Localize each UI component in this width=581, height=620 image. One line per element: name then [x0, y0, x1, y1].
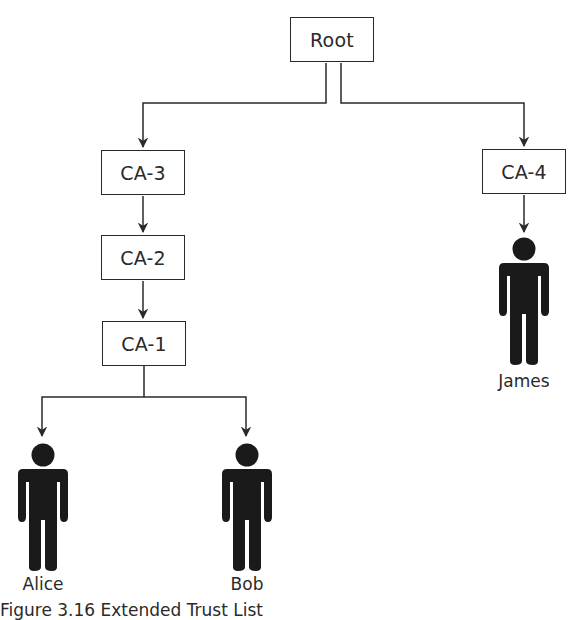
person-alice-label: Alice: [23, 574, 64, 594]
node-ca3-label: CA-3: [120, 162, 166, 184]
node-ca4: CA-4: [482, 149, 566, 194]
edge-ca1-bob: [144, 397, 246, 436]
node-ca2-label: CA-2: [120, 247, 166, 269]
node-ca1: CA-1: [102, 321, 186, 366]
person-bob-label: Bob: [231, 574, 264, 594]
edge-root-ca4: [341, 63, 524, 146]
edge-root-ca3: [143, 63, 326, 147]
person-icon: [17, 442, 69, 572]
person-icon: [498, 236, 550, 366]
node-ca2: CA-2: [101, 235, 185, 280]
node-ca3: CA-3: [101, 150, 185, 195]
person-icon: [221, 442, 273, 572]
node-root-label: Root: [310, 29, 354, 51]
person-james-label: James: [498, 371, 549, 391]
figure-caption: Figure 3.16 Extended Trust List: [0, 600, 263, 620]
node-root: Root: [290, 17, 374, 62]
edge-ca1-alice: [42, 397, 144, 436]
node-ca4-label: CA-4: [501, 161, 547, 183]
node-ca1-label: CA-1: [121, 333, 167, 355]
